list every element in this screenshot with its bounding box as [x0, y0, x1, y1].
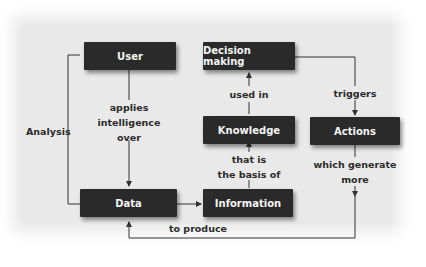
- edge-decision-actions-top: [293, 57, 355, 86]
- edge-label-triggers: triggers: [325, 86, 385, 101]
- edge-label-line: which generate: [310, 157, 400, 172]
- node-knowledge-label: Knowledge: [218, 125, 280, 136]
- node-information-label: Information: [215, 198, 281, 209]
- node-data[interactable]: Data: [80, 189, 177, 217]
- edge-label-used-in: used in: [219, 87, 279, 102]
- edge-label-which-generate-more: which generate more: [310, 157, 400, 187]
- edge-label-line: that is: [209, 152, 289, 167]
- node-information[interactable]: Information: [203, 189, 293, 217]
- node-user[interactable]: User: [84, 42, 176, 70]
- node-decision-making-label: Decision making: [203, 45, 295, 67]
- node-actions-label: Actions: [334, 126, 376, 137]
- node-knowledge[interactable]: Knowledge: [203, 116, 295, 144]
- edge-label-line: more: [310, 172, 400, 187]
- edge-label-to-produce: to produce: [163, 221, 233, 236]
- edge-label-analysis: Analysis: [26, 124, 66, 139]
- node-data-label: Data: [115, 198, 142, 209]
- edge-label-line: applies: [94, 100, 164, 115]
- edge-label-applies-intelligence-over: applies intelligence over: [94, 100, 164, 145]
- node-decision-making[interactable]: Decision making: [203, 42, 295, 70]
- node-actions[interactable]: Actions: [310, 117, 400, 145]
- edge-label-line: over: [94, 130, 164, 145]
- node-user-label: User: [117, 51, 143, 62]
- edge-label-that-is-the-basis-of: that is the basis of: [209, 152, 289, 182]
- edge-label-line: intelligence: [94, 115, 164, 130]
- edge-label-line: the basis of: [209, 167, 289, 182]
